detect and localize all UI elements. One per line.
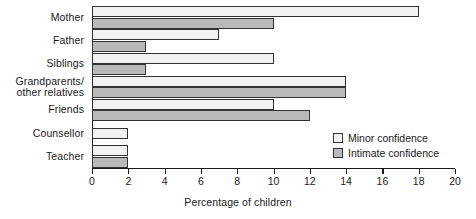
category-label: Mother: [51, 12, 84, 24]
x-tick: [346, 169, 347, 174]
x-tick: [274, 169, 275, 174]
x-tick-label: 10: [268, 175, 280, 187]
x-tick-label: 18: [413, 175, 425, 187]
legend-swatch-intimate: [333, 148, 343, 158]
bar-minor-confidence: [92, 145, 128, 156]
x-tick: [201, 169, 202, 174]
bar-minor-confidence: [92, 128, 128, 139]
x-tick: [310, 169, 311, 174]
bar-minor-confidence: [92, 99, 274, 110]
bar-intimate-confidence: [92, 110, 310, 121]
x-tick-label: 16: [377, 175, 389, 187]
x-tick: [128, 169, 129, 174]
category-label: Friends: [48, 104, 84, 116]
legend-label: Intimate confidence: [348, 147, 439, 159]
bar-minor-confidence: [92, 53, 274, 64]
bar-minor-confidence: [92, 76, 346, 87]
x-tick: [237, 169, 238, 174]
x-tick: [419, 169, 420, 174]
category-label: Father: [53, 35, 84, 47]
x-tick-label: 20: [449, 175, 461, 187]
bar-intimate-confidence: [92, 87, 346, 98]
x-tick-label: 14: [340, 175, 352, 187]
legend-label: Minor confidence: [348, 132, 428, 144]
bar-intimate-confidence: [92, 64, 146, 75]
x-tick: [455, 169, 456, 174]
bar-minor-confidence: [92, 6, 419, 17]
category-label: Counsellor: [33, 128, 84, 140]
chart-legend: Minor confidenceIntimate confidence: [333, 131, 439, 161]
x-tick: [382, 169, 383, 174]
x-tick-label: 6: [198, 175, 204, 187]
bar-chart-figure: MotherFatherSiblingsGrandparents/ other …: [0, 0, 476, 219]
x-tick-label: 12: [304, 175, 316, 187]
x-tick: [92, 169, 93, 174]
x-tick-label: 8: [234, 175, 240, 187]
x-axis-title: Percentage of children: [0, 196, 476, 208]
bar-intimate-confidence: [92, 41, 146, 52]
category-label: Teacher: [46, 151, 84, 163]
category-label: Grandparents/ other relatives: [16, 76, 84, 99]
bar-intimate-confidence: [92, 157, 128, 168]
legend-swatch-minor: [333, 133, 343, 143]
bar-minor-confidence: [92, 29, 219, 40]
legend-item: Intimate confidence: [333, 146, 439, 160]
x-tick-label: 0: [89, 175, 95, 187]
category-axis-labels: MotherFatherSiblingsGrandparents/ other …: [0, 6, 88, 168]
legend-item: Minor confidence: [333, 131, 439, 145]
x-tick: [165, 169, 166, 174]
category-label: Siblings: [46, 58, 84, 70]
x-tick-label: 2: [125, 175, 131, 187]
bar-intimate-confidence: [92, 18, 274, 29]
x-tick-label: 4: [162, 175, 168, 187]
